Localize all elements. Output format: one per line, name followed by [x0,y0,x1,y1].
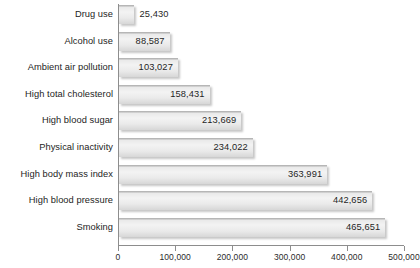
bar-row: High blood pressure442,656 [0,191,405,217]
bar: 213,669 [119,111,241,130]
bar-container: 234,022 [119,138,253,157]
bar: 465,651 [119,218,385,237]
bar [119,5,134,24]
bar-value-label: 88,587 [136,32,165,51]
bar-row: High blood sugar213,669 [0,111,405,137]
bar-value-label: 103,027 [139,58,173,77]
category-label: Alcohol use [64,32,113,51]
bar: 158,431 [119,85,210,104]
bar-value-label: 234,022 [214,138,248,157]
bar-container: 442,656 [119,191,372,210]
bar-value-label: 363,991 [288,165,322,184]
x-axis-tick-label: 200,000 [217,252,248,262]
x-axis-tick [404,246,405,251]
bar-value-label: 25,430 [140,5,169,24]
category-label: High body mass index [21,165,113,184]
bar-row: Drug use25,430 [0,5,405,31]
x-axis-tick [232,246,233,251]
x-axis-tick-label: 500,000 [388,252,419,262]
x-axis-tick-label: 300,000 [274,252,305,262]
bar-container: 158,431 [119,85,210,104]
bar-row: High body mass index363,991 [0,165,405,191]
bar-rows: Drug use25,430Alcohol use88,587Ambient a… [0,0,405,245]
bar-row: Ambient air pollution103,027 [0,58,405,84]
bar-container: 213,669 [119,111,241,130]
bar: 234,022 [119,138,253,157]
category-label: High total cholesterol [25,85,113,104]
bar-value-label: 442,656 [333,191,367,210]
x-axis-tick [290,246,291,251]
bar-container: 103,027 [119,58,178,77]
bar-row: High total cholesterol158,431 [0,85,405,111]
bar-container: 465,651 [119,218,385,237]
bar-row: Smoking465,651 [0,218,405,244]
x-axis-tick [175,246,176,251]
bar-container: 88,587 [119,32,170,51]
bar-container: 363,991 [119,165,327,184]
category-label: Ambient air pollution [28,58,113,77]
bar: 363,991 [119,165,327,184]
x-axis-tick-label: 0 [116,252,121,262]
bar-row: Physical inactivity234,022 [0,138,405,164]
bar-value-label: 158,431 [170,85,204,104]
category-label: High blood pressure [29,191,113,210]
bar-container [119,5,134,24]
category-label: Drug use [75,5,113,24]
bar: 103,027 [119,58,178,77]
category-label: Physical inactivity [39,138,113,157]
x-axis-tick-label: 100,000 [159,252,190,262]
bar-value-label: 213,669 [202,111,236,130]
x-axis-tick [347,246,348,251]
bar: 442,656 [119,191,372,210]
bar-row: Alcohol use88,587 [0,32,405,58]
x-axis-tick-label: 400,000 [331,252,362,262]
x-axis-tick [118,246,119,251]
category-label: High blood sugar [42,111,113,130]
category-label: Smoking [76,218,113,237]
bar-value-label: 465,651 [346,218,380,237]
x-axis-line [118,245,404,246]
bar: 88,587 [119,32,170,51]
